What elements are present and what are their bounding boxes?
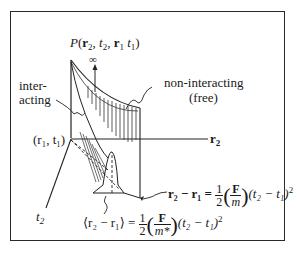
equation-interacting: ⟨r₂ − r₁⟩ = 12(Fm*)(t₂ − t₁)2 [83,212,223,237]
t2-axis [46,139,71,208]
label-interacting-2: acting [19,93,51,106]
axis-r2-label: r2 [210,132,220,150]
infinity-label: ∞ [89,53,97,66]
label-noninteracting-2: (free) [189,91,218,104]
axis-t2-label: t2 [36,210,44,228]
free-hatching [88,86,136,142]
origin-label: (r₁, t₁) [33,133,65,146]
equation-free: r₂ − r₁ = 12(Fm)(t₂ − t₁)2 [168,183,293,208]
probability-title: P(r2, t2, r1 t1) [70,36,140,54]
label-noninteracting-1: non-interacting [164,76,243,89]
label-interacting-1: inter- [19,79,47,92]
